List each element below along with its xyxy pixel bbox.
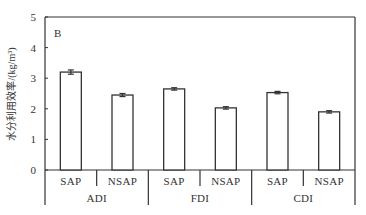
x-axis-categories: SAPNSAPADISAPNSAPFDISAPNSAPCDI	[60, 170, 344, 205]
subcategory-label: SAP	[164, 175, 185, 187]
group-label: CDI	[293, 192, 313, 204]
bar-cdi-nsap	[319, 112, 340, 170]
bar-fdi-sap	[164, 89, 185, 170]
y-tick-label: 2	[31, 103, 37, 115]
y-tick-label: 4	[31, 42, 37, 54]
subcategory-label: NSAP	[108, 175, 137, 187]
group-label: ADI	[86, 192, 106, 204]
subcategory-label: NSAP	[211, 175, 240, 187]
y-tick-label: 5	[31, 11, 37, 23]
group-label: FDI	[191, 192, 210, 204]
bar-adi-nsap	[112, 95, 133, 170]
y-tick-label: 1	[31, 133, 37, 145]
panel-label: B	[54, 27, 61, 39]
y-tick-label: 3	[31, 72, 37, 84]
bar-chart: 012345 SAPNSAPADISAPNSAPFDISAPNSAPCDI B …	[0, 0, 366, 215]
bars	[60, 70, 339, 170]
bar-cdi-sap	[267, 93, 288, 170]
bar-adi-sap	[60, 72, 81, 170]
bar-fdi-nsap	[215, 108, 236, 170]
subcategory-label: SAP	[60, 175, 81, 187]
y-tick-label: 0	[31, 164, 37, 176]
y-axis-label: 水分利用效率/(kg/m³)	[5, 48, 18, 141]
subcategory-label: SAP	[267, 175, 288, 187]
subcategory-label: NSAP	[315, 175, 344, 187]
